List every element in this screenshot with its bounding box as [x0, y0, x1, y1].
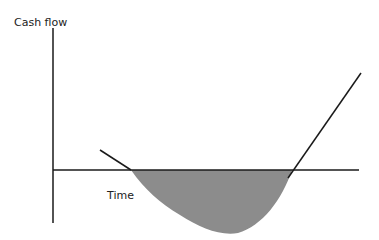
- cash-flow-diagram: [0, 0, 379, 240]
- initial-decline-line: [100, 150, 131, 170]
- recovery-line: [288, 73, 361, 178]
- negative-cash-flow-area: [131, 170, 292, 234]
